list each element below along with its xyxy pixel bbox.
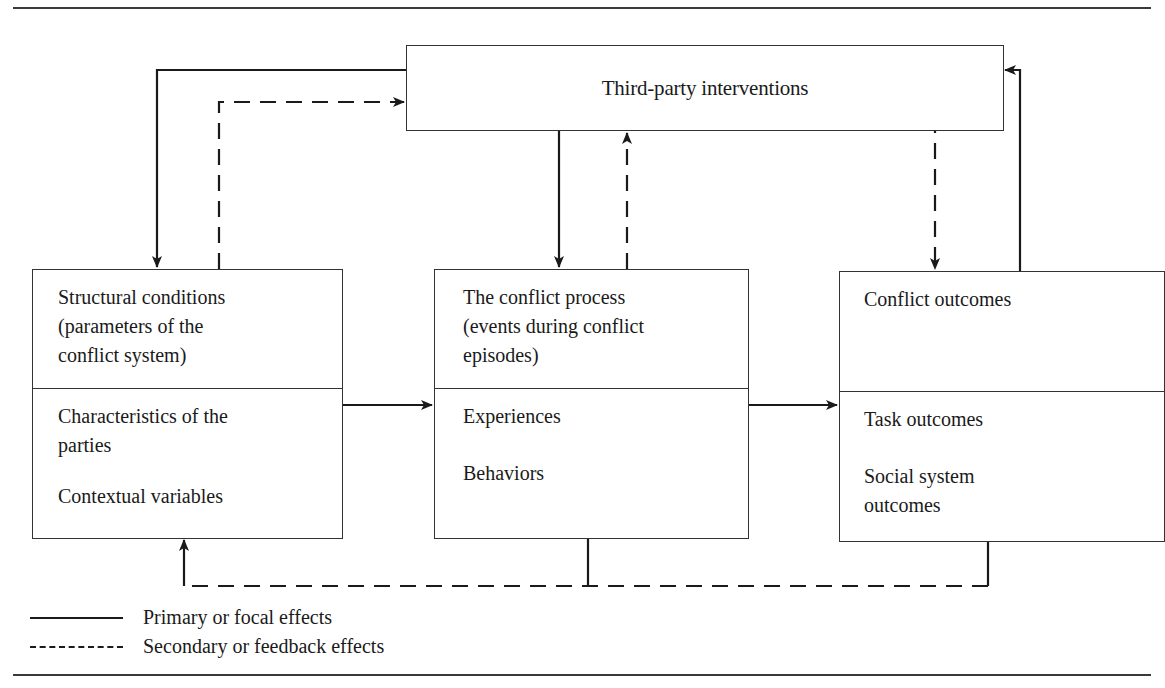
box-text: episodes) (463, 341, 748, 370)
box-text: Social system (864, 462, 1164, 491)
box-text: outcomes (864, 491, 1164, 520)
legend-item-solid: Primary or focal effects (30, 603, 384, 632)
box-text: Structural conditions (58, 283, 342, 312)
conflict-process-header: The conflict process (events during conf… (435, 270, 748, 388)
dashed-line-icon (30, 646, 123, 648)
solid-line-icon (30, 617, 123, 619)
box-text: Characteristics of the (58, 402, 342, 431)
conflict-process-details: Experiences Behaviors (435, 388, 748, 538)
box-text: Contextual variables (58, 482, 342, 511)
legend-label-solid: Primary or focal effects (143, 606, 332, 629)
legend-item-dashed: Secondary or feedback effects (30, 632, 384, 661)
structural-conditions-details: Characteristics of the parties Contextua… (33, 388, 342, 538)
conflict-process-box: The conflict process (events during conf… (434, 269, 749, 539)
box-text: parties (58, 431, 342, 460)
conflict-outcomes-details: Task outcomes Social system outcomes (840, 391, 1164, 541)
spacer (58, 460, 342, 482)
edge-third-party-to-outcomes (935, 107, 1003, 269)
third-party-interventions-label: Third-party interventions (407, 46, 1003, 130)
third-party-interventions-box: Third-party interventions (406, 45, 1004, 131)
structural-conditions-header: Structural conditions (parameters of the… (33, 270, 342, 388)
spacer (864, 434, 1164, 462)
box-text: (parameters of the (58, 312, 342, 341)
top-rule (13, 7, 1151, 9)
legend-label-dashed: Secondary or feedback effects (143, 635, 384, 658)
conflict-outcomes-header: Conflict outcomes (840, 272, 1164, 391)
conflict-outcomes-box: Conflict outcomes Task outcomes Social s… (839, 271, 1165, 542)
structural-conditions-box: Structural conditions (parameters of the… (32, 269, 343, 539)
box-text: conflict system) (58, 341, 342, 370)
spacer (463, 431, 748, 459)
box-text: The conflict process (463, 283, 748, 312)
box-text: Behaviors (463, 459, 748, 488)
bottom-rule (13, 674, 1151, 676)
edge-third-party-to-structural (157, 70, 406, 267)
box-text: Task outcomes (864, 405, 1164, 434)
legend: Primary or focal effects Secondary or fe… (30, 603, 384, 661)
box-text: Conflict outcomes (864, 285, 1164, 314)
box-text: Experiences (463, 402, 748, 431)
edge-structural-to-third-party (219, 102, 404, 269)
box-text: (events during conflict (463, 312, 748, 341)
edge-outcomes-to-third-party (1005, 70, 1020, 271)
